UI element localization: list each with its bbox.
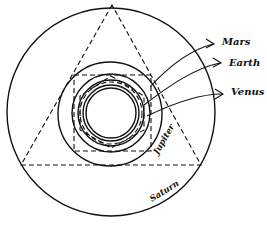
earth-label: Earth: [228, 57, 260, 68]
jupiter-label: Jupiter: [150, 122, 177, 158]
venus-label: Venus: [231, 86, 265, 97]
saturn-orbit: [7, 8, 215, 216]
mercury-orbit: [86, 88, 136, 138]
kepler-orbit-diagram: Mars Earth Venus Jupiter Saturn: [0, 0, 267, 226]
mars-label: Mars: [221, 36, 251, 47]
saturn-label: Saturn: [148, 178, 181, 204]
earth-orbit: [78, 80, 144, 146]
venus-arrow: [147, 94, 222, 116]
mars-arrowhead-icon: [206, 39, 214, 48]
venus-orbit: [83, 85, 139, 141]
earth-inner-solid: [80, 82, 142, 144]
earth-arrowhead-icon: [213, 58, 221, 67]
